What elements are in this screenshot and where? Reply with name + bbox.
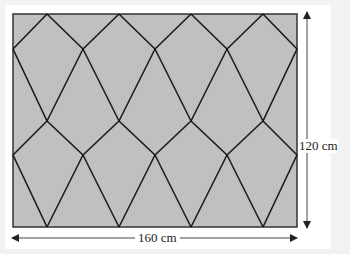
width-label: 160 cm xyxy=(136,231,179,245)
kite-tiling-diagram xyxy=(0,0,350,254)
tiled-rectangle xyxy=(13,14,297,227)
height-label: 120 cm xyxy=(299,139,338,153)
